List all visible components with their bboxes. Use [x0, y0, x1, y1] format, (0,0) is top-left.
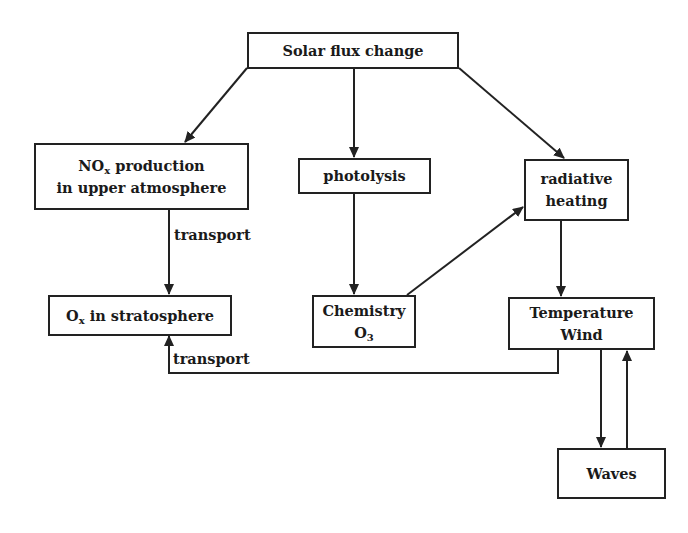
node-label: Waves: [586, 463, 636, 485]
arrow-solar-to-radiative: [459, 68, 564, 158]
node-waves: Waves: [557, 448, 666, 499]
node-solar-flux-change: Solar flux change: [247, 32, 459, 69]
node-label-line1: radiative: [541, 168, 613, 190]
node-label: photolysis: [323, 165, 406, 187]
edge-label-transport-temp-ox: transport: [173, 350, 250, 367]
edge-label-transport-nox-ox: transport: [174, 226, 251, 243]
node-label-line2: O3: [354, 322, 374, 344]
node-nox-production: NOx production in upper atmosphere: [34, 143, 249, 210]
node-radiative-heating: radiative heating: [524, 159, 629, 221]
node-label: Solar flux change: [282, 40, 423, 62]
node-photolysis: photolysis: [298, 158, 431, 194]
node-chemistry-o3: Chemistry O3: [312, 295, 416, 348]
node-label-line1: Chemistry: [322, 300, 405, 322]
arrow-solar-to-nox: [185, 68, 247, 142]
arrow-chemistry-to-radiative: [407, 207, 523, 295]
node-label-line2: heating: [545, 190, 607, 212]
node-label-line1: Temperature: [529, 302, 633, 324]
node-label: Ox in stratosphere: [66, 305, 214, 327]
node-temperature-wind: Temperature Wind: [508, 297, 655, 350]
node-label-line1: NOx production: [78, 155, 204, 177]
node-ox-stratosphere: Ox in stratosphere: [48, 295, 232, 336]
node-label-line2: in upper atmosphere: [57, 177, 227, 199]
node-label-line2: Wind: [560, 324, 602, 346]
